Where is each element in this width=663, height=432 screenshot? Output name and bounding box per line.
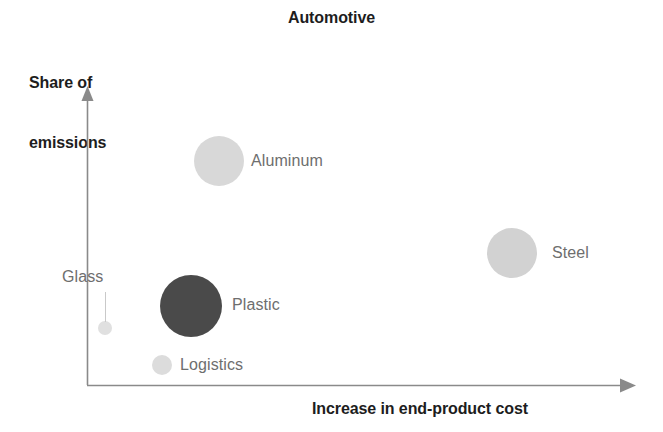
bubble-label-plastic: Plastic <box>232 296 280 314</box>
bubble-label-steel: Steel <box>552 244 589 262</box>
bubble-label-glass: Glass <box>62 268 103 286</box>
bubble-label-logistics: Logistics <box>180 356 243 374</box>
bubble-chart: Automotive Share of emissions Aluminum S… <box>0 0 663 432</box>
bubble-glass[interactable] <box>98 321 112 335</box>
x-axis-arrowhead-icon <box>620 379 636 393</box>
bubble-plastic[interactable] <box>160 275 222 337</box>
bubble-aluminum[interactable] <box>194 136 244 186</box>
axes <box>0 0 663 432</box>
x-axis-label: Increase in end-product cost <box>312 400 528 418</box>
bubble-label-aluminum: Aluminum <box>251 152 323 170</box>
bubble-logistics[interactable] <box>152 355 172 375</box>
bubble-steel[interactable] <box>487 228 537 278</box>
y-axis-arrowhead-icon <box>82 86 94 101</box>
glass-leader-line <box>105 292 106 322</box>
